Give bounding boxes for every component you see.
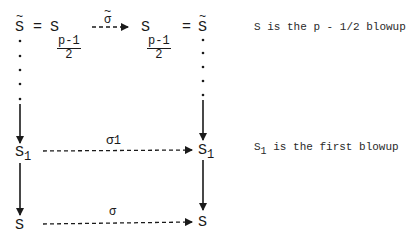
s-p-minus-1-half-left: S	[50, 20, 59, 35]
s-p-minus-1-half-right: S	[141, 20, 150, 35]
fraction-right: p-1 2	[147, 35, 171, 62]
equals-sign-1: =	[33, 20, 42, 35]
annotation-top: S is the p - 1/2 blowup	[254, 21, 406, 33]
s-tilde-left: ~S	[15, 20, 24, 35]
sigma1-dashed-arrow	[43, 150, 192, 151]
sigma1-label: σ1	[106, 133, 121, 148]
s1-right: S1	[198, 143, 214, 159]
sigma-dashed-arrow	[43, 222, 192, 224]
equals-sign-2: =	[182, 20, 191, 35]
sigma-tilde-label: ~σ	[104, 13, 111, 27]
annotation-middle: S1 is the first blowup	[254, 141, 399, 153]
s-bottom-left: S	[15, 218, 24, 233]
s1-left: S1	[15, 145, 31, 161]
s-bottom-right: S	[198, 215, 207, 230]
fraction-left: p-1 2	[57, 35, 81, 62]
right-dotted-column	[202, 39, 205, 97]
sigma-label: σ	[109, 205, 116, 219]
left-dotted-column	[19, 40, 22, 101]
s-tilde-right: ~S	[198, 20, 207, 35]
